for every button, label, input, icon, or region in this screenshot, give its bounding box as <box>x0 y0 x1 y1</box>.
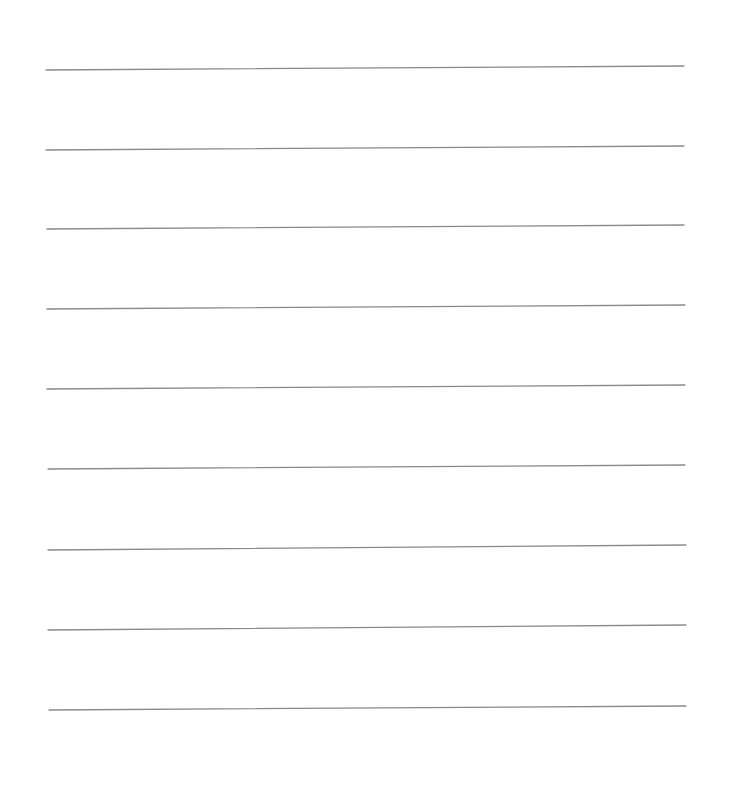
ruled-line-8 <box>48 625 686 630</box>
ruled-line-5 <box>47 385 685 389</box>
ruled-line-7 <box>48 545 686 550</box>
ruled-line-9 <box>49 706 686 710</box>
ruled-line-2 <box>46 146 684 150</box>
ruled-line-6 <box>48 465 685 469</box>
ruled-line-3 <box>47 225 684 229</box>
ruled-line-1 <box>46 66 684 70</box>
ruled-line-4 <box>47 305 685 309</box>
lined-page <box>0 0 732 787</box>
ruled-lines <box>0 0 732 787</box>
